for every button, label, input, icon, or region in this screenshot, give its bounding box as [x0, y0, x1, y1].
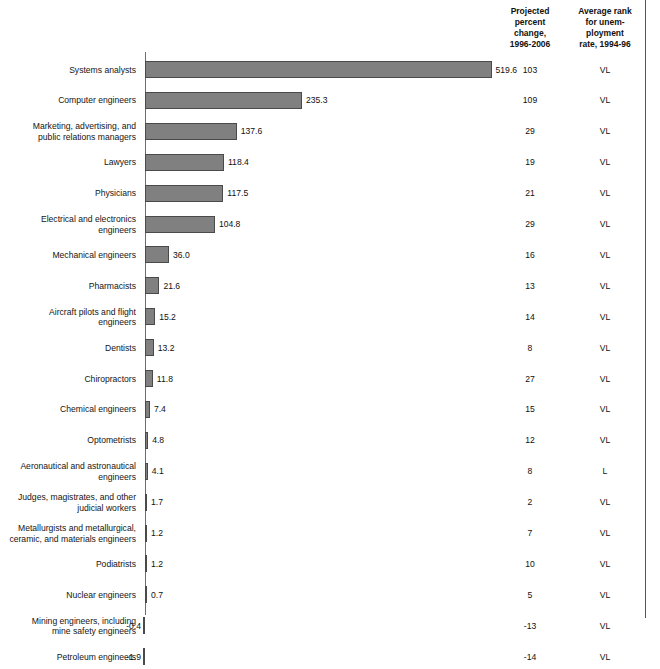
- bar-value-label: 36.0: [173, 250, 190, 260]
- value-bar: [145, 494, 147, 511]
- cell-projected-change: 21: [500, 188, 560, 198]
- occupation-label: Marketing, advertising, and public relat…: [0, 121, 136, 142]
- cell-unemployment-rank: VL: [570, 157, 640, 167]
- table-row: Pharmacists21.613VL: [0, 270, 660, 301]
- occupation-label: Dentists: [0, 342, 136, 353]
- occupation-label: Petroleum engineers: [0, 651, 136, 662]
- value-bar: [145, 185, 223, 202]
- table-row: Judges, magistrates, and other judicial …: [0, 487, 660, 518]
- bar-value-label: 7.4: [154, 404, 166, 414]
- cell-projected-change: 7: [500, 528, 560, 538]
- cell-unemployment-rank: VL: [570, 621, 640, 631]
- cell-unemployment-rank: VL: [570, 95, 640, 105]
- cell-projected-change: 2: [500, 497, 560, 507]
- cell-projected-change: 16: [500, 250, 560, 260]
- cell-unemployment-rank: VL: [570, 250, 640, 260]
- cell-projected-change: 19: [500, 157, 560, 167]
- occupation-label: Lawyers: [0, 157, 136, 168]
- bar-value-label: -1.9: [117, 652, 141, 662]
- bar-value-label: 118.4: [228, 157, 249, 167]
- value-bar: [145, 154, 224, 171]
- cell-projected-change: 12: [500, 435, 560, 445]
- bar-value-label: 15.2: [159, 312, 176, 322]
- bar-value-label: 13.2: [158, 343, 175, 353]
- cell-unemployment-rank: VL: [570, 312, 640, 322]
- table-row: Podiatrists1.210VL: [0, 548, 660, 579]
- occupation-label: Chiropractors: [0, 373, 136, 384]
- cell-projected-change: 109: [500, 95, 560, 105]
- bar-value-label: 137.6: [241, 126, 263, 136]
- cell-unemployment-rank: VL: [570, 65, 640, 75]
- table-row: Aeronautical and astronautical engineers…: [0, 456, 660, 487]
- cell-projected-change: 29: [500, 126, 560, 136]
- cell-unemployment-rank: VL: [570, 188, 640, 198]
- table-row: Computer engineers235.3109VL: [0, 85, 660, 116]
- table-row: Marketing, advertising, and public relat…: [0, 116, 660, 147]
- bar-value-label: 117.5: [227, 188, 248, 198]
- value-bar: [145, 277, 159, 294]
- occupation-label: Metallurgists and metallurgical, ceramic…: [0, 523, 136, 544]
- table-row: Metallurgists and metallurgical, ceramic…: [0, 518, 660, 549]
- value-bar: [145, 555, 147, 572]
- bar-value-label: 11.8: [157, 374, 173, 384]
- cell-unemployment-rank: VL: [570, 652, 640, 662]
- value-bar: [145, 525, 147, 542]
- bar-value-label: 21.6: [163, 281, 180, 291]
- occupation-label: Physicians: [0, 188, 136, 199]
- occupation-label: Aircraft pilots and flight engineers: [0, 306, 136, 327]
- value-bar: [143, 648, 145, 665]
- bar-value-label: 4.1: [152, 466, 164, 476]
- cell-unemployment-rank: VL: [570, 528, 640, 538]
- value-bar: [145, 123, 237, 140]
- cell-unemployment-rank: VL: [570, 343, 640, 353]
- bar-value-label: -0.4: [117, 621, 141, 631]
- value-bar: [145, 308, 155, 325]
- table-row: Systems analysts519.6103VL: [0, 54, 660, 85]
- value-bar: [145, 216, 215, 233]
- table-row: Mining engineers, including mine safety …: [0, 610, 660, 641]
- bar-value-label: 104.8: [219, 219, 241, 229]
- table-row: Optometrists4.812VL: [0, 425, 660, 456]
- bar-value-label: 1.2: [151, 528, 163, 538]
- occupation-label: Mechanical engineers: [0, 250, 136, 261]
- cell-projected-change: 8: [500, 343, 560, 353]
- occupation-label: Nuclear engineers: [0, 590, 136, 601]
- cell-unemployment-rank: VL: [570, 374, 640, 384]
- occupation-label: Chemical engineers: [0, 404, 136, 415]
- cell-projected-change: 29: [500, 219, 560, 229]
- table-row: Physicians117.521VL: [0, 178, 660, 209]
- value-bar: [145, 339, 154, 356]
- column-header-average-rank: Average rank for unem- ployment rate, 19…: [570, 6, 640, 50]
- table-row: Aircraft pilots and flight engineers15.2…: [0, 301, 660, 332]
- bar-value-label: 235.3: [306, 95, 328, 105]
- cell-projected-change: 15: [500, 404, 560, 414]
- cell-unemployment-rank: VL: [570, 435, 640, 445]
- table-row: Dentists13.28VL: [0, 332, 660, 363]
- cell-unemployment-rank: VL: [570, 281, 640, 291]
- table-row: Chemical engineers7.415VL: [0, 394, 660, 425]
- value-bar: [145, 401, 150, 418]
- table-row: Chiropractors11.827VL: [0, 363, 660, 394]
- value-bar: [145, 92, 302, 109]
- cell-unemployment-rank: VL: [570, 497, 640, 507]
- occupation-label: Mining engineers, including mine safety …: [0, 615, 136, 636]
- value-bar: [145, 246, 169, 263]
- table-row: Electrical and electronics engineers104.…: [0, 209, 660, 240]
- occupation-label: Computer engineers: [0, 95, 136, 106]
- value-bar: [145, 432, 148, 449]
- table-row: Petroleum engineers-1.9-14VL: [0, 641, 660, 669]
- occupation-label: Podiatrists: [0, 559, 136, 570]
- value-bar: [145, 61, 492, 78]
- table-row: Mechanical engineers36.016VL: [0, 239, 660, 270]
- occupation-label: Systems analysts: [0, 64, 136, 75]
- table-row: Lawyers118.419VL: [0, 147, 660, 178]
- occupation-label: Judges, magistrates, and other judicial …: [0, 492, 136, 513]
- value-bar: [143, 617, 145, 634]
- cell-unemployment-rank: L: [570, 466, 640, 476]
- cell-unemployment-rank: VL: [570, 559, 640, 569]
- bar-value-label: 1.2: [151, 559, 163, 569]
- cell-unemployment-rank: VL: [570, 404, 640, 414]
- table-row: Nuclear engineers0.75VL: [0, 579, 660, 610]
- bar-value-label: 1.7: [151, 497, 163, 507]
